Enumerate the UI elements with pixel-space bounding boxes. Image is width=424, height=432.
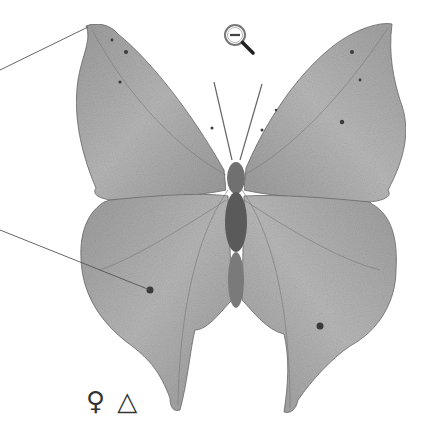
zoom-out-button[interactable]	[222, 22, 258, 58]
butterfly-illustration	[0, 0, 424, 432]
left-antenna	[214, 82, 232, 160]
female-symbol: ♀	[86, 386, 107, 416]
zoom-out-icon	[222, 22, 258, 58]
right-hindwing	[242, 195, 396, 412]
left-forewing	[76, 24, 226, 200]
right-forewing	[244, 23, 406, 202]
triangle-symbol: △	[117, 386, 139, 416]
left-hindwing	[81, 194, 232, 410]
leader-line-forewing-tip	[0, 27, 88, 70]
specimen-symbols: ♀ △	[86, 386, 139, 416]
